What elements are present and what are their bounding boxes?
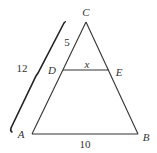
side-ac [32, 22, 86, 134]
length-label-cd: 5 [64, 37, 70, 48]
point-label-c: C [82, 7, 89, 18]
similar-triangles-diagram: C D E A B 5 12 x 10 [0, 0, 157, 153]
length-label-de: x [85, 59, 90, 70]
point-label-e: E [116, 67, 123, 78]
point-label-d: D [48, 65, 56, 76]
point-label-b: B [143, 132, 150, 143]
length-label-ca: 12 [17, 63, 28, 74]
point-label-a: A [18, 129, 25, 140]
length-brace-12 [11, 23, 64, 132]
side-bc [86, 22, 138, 134]
brace-top-hook [64, 22, 65, 23]
length-label-ab: 10 [80, 139, 91, 150]
